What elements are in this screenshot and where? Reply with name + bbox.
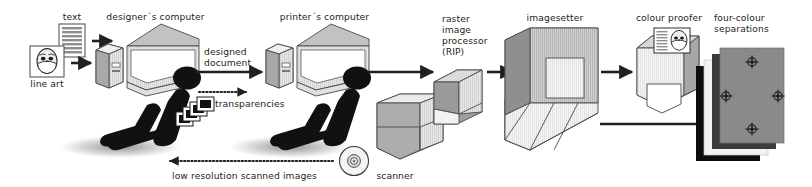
label-rip-line4: (RIP): [442, 46, 464, 57]
proof-sheet: [654, 28, 690, 53]
label-printers-computer: printer´s computer: [272, 11, 377, 22]
designers-tower: [96, 44, 123, 88]
label-rip-line1: raster: [442, 13, 470, 24]
workflow-diagram: text line art designer´s computer design…: [0, 0, 812, 187]
label-line-art: line art: [23, 78, 71, 89]
label-rip-line2: image: [442, 24, 471, 35]
label-transparencies: transparencies: [215, 98, 285, 109]
diagram-canvas: [0, 0, 812, 187]
label-designed-document-line1: designed: [204, 46, 247, 57]
label-imagesetter: imagesetter: [513, 12, 597, 23]
printers-tower: [266, 44, 293, 88]
separations-stack: [696, 48, 785, 161]
proof-face-icon: [671, 30, 687, 50]
scanner-graphic: [377, 94, 443, 159]
label-designed-document-line2: document: [204, 57, 251, 68]
label-colour-proofer: colour proofer: [625, 12, 713, 23]
label-separations-line1: four-colour: [714, 12, 765, 23]
rip-graphic: [434, 70, 482, 124]
cd-disc-icon: [340, 147, 369, 176]
face-icon: [37, 49, 57, 74]
line-art-thumbnail: [30, 46, 64, 77]
imagesetter-graphic: [505, 28, 598, 150]
label-separations-line2: separations: [714, 23, 769, 34]
label-text: text: [50, 11, 94, 22]
label-scanner: scanner: [368, 170, 422, 181]
label-designers-computer: designer´s computer: [103, 11, 208, 22]
label-low-resolution: low resolution scanned images: [172, 170, 317, 181]
colour-proofer-graphic: [637, 28, 699, 113]
label-rip-line3: processor: [442, 35, 488, 46]
